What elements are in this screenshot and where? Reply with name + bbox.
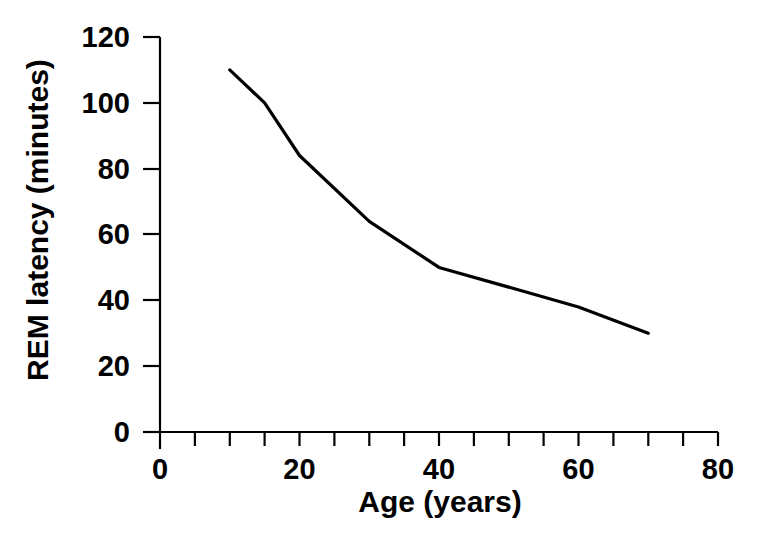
series-line-rem-latency [230,70,649,333]
x-axis-title: Age (years) [160,487,720,517]
x-tick-label-0: 0 [152,455,168,484]
y-axis-title: REM latency (minutes) [16,0,60,440]
y-axis-ticks [143,37,160,432]
x-axis-ticks [160,432,718,449]
x-tick-label-60: 60 [562,455,594,484]
chart-canvas [0,0,764,543]
rem-latency-line-chart: 120 100 80 60 40 20 0 0 20 40 60 80 REM … [0,0,764,543]
x-tick-label-20: 20 [283,455,315,484]
x-tick-label-80: 80 [702,455,734,484]
x-tick-label-40: 40 [423,455,455,484]
